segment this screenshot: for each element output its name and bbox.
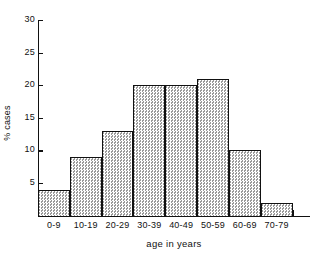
y-axis-label-text: % cases xyxy=(2,105,12,140)
y-tick-label: 30 xyxy=(11,14,35,24)
x-axis-label: age in years xyxy=(38,238,310,249)
y-tick-label: 20 xyxy=(11,79,35,89)
bar xyxy=(70,157,102,216)
bar xyxy=(261,203,293,216)
x-tick-label: 30-39 xyxy=(137,220,161,230)
x-tick-label: 50-59 xyxy=(201,220,225,230)
bar xyxy=(133,85,165,215)
x-tick-label: 60-69 xyxy=(233,220,257,230)
bar xyxy=(197,79,229,216)
y-tick-mark xyxy=(39,150,43,151)
histogram-figure: % cases 51015202530 0-910-1920-2930-3940… xyxy=(0,0,320,261)
y-tick-mark xyxy=(39,53,43,54)
y-tick-mark xyxy=(39,85,43,86)
bar xyxy=(229,150,261,215)
x-tick-label: 0-9 xyxy=(47,220,61,230)
x-axis-line xyxy=(38,216,310,217)
y-tick-label: 10 xyxy=(11,144,35,154)
bar xyxy=(165,85,197,215)
bar xyxy=(102,131,134,216)
y-tick-mark xyxy=(39,20,43,21)
x-tick-label: 70-79 xyxy=(265,220,289,230)
x-tick-label: 40-49 xyxy=(169,220,193,230)
y-tick-mark xyxy=(39,183,43,184)
x-tick-mark xyxy=(293,210,294,216)
y-tick-mark xyxy=(39,118,43,119)
y-tick-label: 15 xyxy=(11,112,35,122)
x-tick-label: 10-19 xyxy=(74,220,98,230)
y-tick-label: 5 xyxy=(11,177,35,187)
x-tick-label: 20-29 xyxy=(106,220,130,230)
plot-area: 51015202530 0-910-1920-2930-3940-4950-59… xyxy=(38,20,310,217)
y-tick-label: 25 xyxy=(11,47,35,57)
bar xyxy=(38,190,70,216)
